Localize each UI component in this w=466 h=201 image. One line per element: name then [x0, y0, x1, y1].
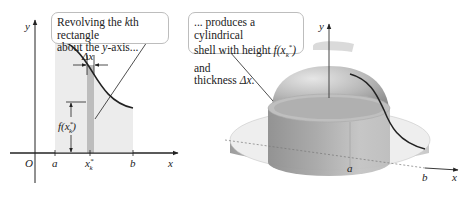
- left-callout: Revolving the kth rectangle about the y-…: [51, 12, 169, 44]
- right-callout: ... produces a cylindrical shell with he…: [188, 12, 304, 54]
- x-axis-label: x: [167, 157, 173, 169]
- rotation-arrow: [313, 41, 354, 52]
- tick-label-a-3d: a: [347, 162, 353, 174]
- tick-label-a: a: [52, 157, 58, 169]
- y-axis-label-3d: y: [318, 20, 324, 32]
- y-axis-label: y: [24, 20, 30, 32]
- x-axis-label-3d: x: [451, 171, 457, 183]
- tick-label-b: b: [130, 157, 136, 169]
- origin-label: O: [25, 157, 33, 169]
- tick-label-b-3d: b: [422, 171, 428, 183]
- tick-label-xk: x*k: [84, 157, 94, 172]
